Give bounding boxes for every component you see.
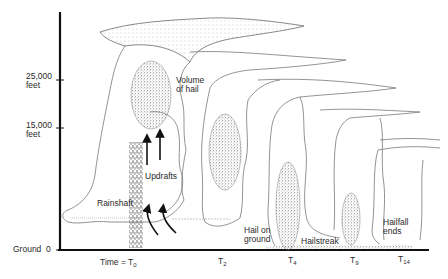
time-label-t2: T2	[218, 257, 227, 269]
rainshaft	[129, 142, 143, 248]
hail-volume-t2	[209, 114, 241, 190]
hail-volume-t4	[276, 162, 300, 250]
time-label-t9: T9	[350, 256, 359, 268]
hailfall-ends-label: Hailfall ends	[383, 218, 409, 236]
cloud-t0	[63, 46, 190, 223]
hailstreak-label: Hailstreak	[301, 237, 339, 246]
hail-volume-t0	[131, 61, 171, 129]
updrafts-label: Updrafts	[145, 172, 177, 181]
hailstorm-diagram	[0, 0, 448, 279]
time-label-t4: T4	[288, 256, 297, 268]
volume-of-hail-label: Volume of hail	[176, 76, 204, 94]
hail-on-ground-label: Hail on ground	[244, 226, 270, 244]
ground-label: Ground 0	[13, 245, 51, 254]
y-label-25000: 25,000 feet	[26, 72, 52, 90]
anvil-cloud-t0	[100, 18, 304, 62]
hail-volume-t9	[342, 193, 360, 245]
time-label-t0: Time = T0	[100, 258, 137, 270]
y-label-15000: 15,000 feet	[26, 121, 52, 139]
rainshaft-label: Rainshaft	[97, 199, 133, 208]
time-label-t14: T14	[398, 255, 410, 267]
